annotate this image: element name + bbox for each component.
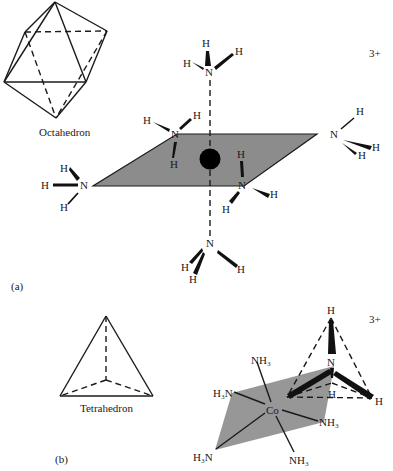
- atom-h: H: [41, 179, 49, 191]
- atom-h: H: [193, 109, 201, 121]
- atom-h: H: [327, 304, 335, 316]
- atom-h: H: [356, 105, 364, 117]
- atom-n: N: [206, 237, 214, 249]
- octahedron-shape: [4, 2, 107, 118]
- atom-h: H: [170, 158, 178, 170]
- ligand-lower-left-label: H₃N: [193, 451, 213, 463]
- atom-n: N: [205, 66, 213, 78]
- atom-h: H: [222, 203, 230, 215]
- atom-h: H: [202, 37, 210, 49]
- octahedron-caption: Octahedron: [39, 126, 91, 138]
- atom-n: N: [238, 179, 246, 191]
- ligand-right-label: NH₃: [319, 416, 339, 428]
- atom-h: H: [60, 201, 68, 213]
- atom-h: H: [358, 149, 366, 161]
- ligand-upper-left-label: H₃N: [213, 387, 233, 399]
- ligand-right: N H H H: [330, 105, 380, 161]
- tetrahedron-caption: Tetrahedron: [80, 402, 133, 414]
- ligand-left: N H H H: [41, 162, 88, 213]
- atom-h: H: [237, 263, 245, 275]
- atom-h: H: [183, 57, 191, 69]
- tetrahedron-shape: [60, 316, 153, 396]
- atom-n: N: [327, 356, 335, 368]
- charge-label-a: 3+: [369, 47, 381, 59]
- atom-h: H: [237, 148, 245, 160]
- atom-h: H: [328, 388, 336, 400]
- atom-n: N: [171, 128, 179, 140]
- atom-h: H: [60, 162, 68, 174]
- part-a-label: (a): [11, 280, 24, 293]
- atom-h: H: [375, 395, 383, 407]
- atom-h: H: [143, 114, 151, 126]
- ligand-top: N H H H: [183, 37, 243, 78]
- atom-n: N: [330, 128, 338, 140]
- atom-h: H: [235, 45, 243, 57]
- ligand-bottom: N H H H: [181, 237, 245, 285]
- atom-h: H: [181, 261, 189, 273]
- charge-label-b: 3+: [369, 313, 381, 325]
- coordination-diagram: .ln { stroke: #1a1a1a; stroke-width: 1.4…: [0, 0, 393, 471]
- atom-n: N: [80, 179, 88, 191]
- ligand-bottom-label: NH₃: [289, 454, 309, 466]
- atom-h: H: [270, 188, 278, 200]
- atom-h: H: [372, 141, 380, 153]
- metal-atom: [200, 149, 221, 170]
- atom-h: H: [189, 273, 197, 285]
- ligand-top-label: NH₃: [251, 354, 271, 366]
- part-b-label: (b): [55, 453, 68, 466]
- co-atom: Co: [266, 404, 279, 416]
